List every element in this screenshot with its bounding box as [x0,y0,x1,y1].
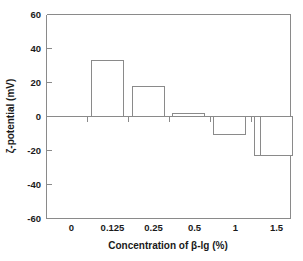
x-tick-label: 1 [233,222,239,233]
y-tick-label: -60 [27,213,41,224]
chart-figure: 60 40 20 0 -20 -40 -60 0 0.125 0.25 0.5 … [0,0,303,261]
bar-025 [173,113,205,116]
bar-15 [261,117,293,156]
y-tick-label: -20 [27,145,41,156]
x-tick-labels: 0 0.125 0.25 0.5 1 1.5 [69,222,284,233]
y-tick-label: -40 [27,179,41,190]
x-tick-label: 0.5 [188,222,202,233]
x-tick-label: 1.5 [270,222,284,233]
bar-0125 [132,87,164,117]
y-tick-label: 40 [30,43,41,54]
y-tick-label: 20 [30,77,41,88]
y-tick-labels: 60 40 20 0 -20 -40 -60 [27,9,41,224]
x-axis-title: Concentration of β-lg (%) [108,240,227,251]
y-tick-label: 0 [36,111,41,122]
y-tick-label: 60 [30,9,41,20]
x-tick-label: 0.125 [101,222,125,233]
y-axis-title: ζ-potential (mV) [5,79,17,154]
x-tick-label: 0.25 [144,222,163,233]
bar-05 [214,117,246,135]
bar-0 [92,60,124,116]
x-tick-label: 0 [69,222,74,233]
zeta-potential-bar-chart: 60 40 20 0 -20 -40 -60 0 0.125 0.25 0.5 … [0,0,303,261]
